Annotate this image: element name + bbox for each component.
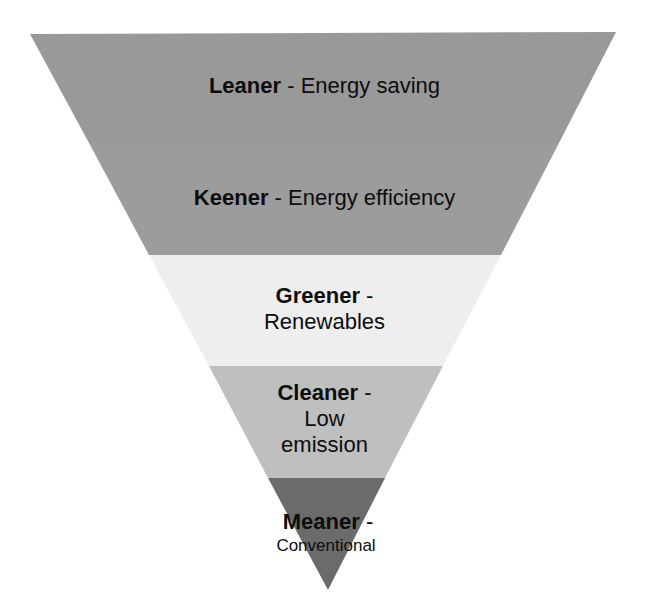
level-title-meaner: Meaner (283, 509, 360, 534)
level-description-cleaner-line1: Low (0, 406, 649, 432)
level-title-greener: Greener (276, 283, 360, 308)
level-title-cleaner: Cleaner (277, 380, 358, 405)
level-title-leaner: Leaner (209, 73, 281, 98)
level-separator: - (358, 380, 371, 405)
level-separator: - (360, 509, 373, 534)
level-description-greener: Renewables (0, 309, 649, 335)
level-label-greener: Greener - Renewables (0, 283, 649, 335)
level-description-leaner: Energy saving (301, 73, 440, 98)
level-label-cleaner: Cleaner - Low emission (0, 380, 649, 458)
level-description-meaner: Conventional (0, 535, 649, 557)
level-separator: - (281, 73, 301, 98)
level-label-leaner: Leaner - Energy saving (0, 72, 649, 100)
level-description-cleaner-line2: emission (0, 432, 649, 458)
level-title-keener: Keener (194, 185, 269, 210)
level-separator: - (268, 185, 288, 210)
level-description-keener: Energy efficiency (288, 185, 455, 210)
level-label-keener: Keener - Energy efficiency (0, 184, 649, 212)
level-label-meaner: Meaner - Conventional (0, 509, 649, 557)
level-separator: - (360, 283, 373, 308)
